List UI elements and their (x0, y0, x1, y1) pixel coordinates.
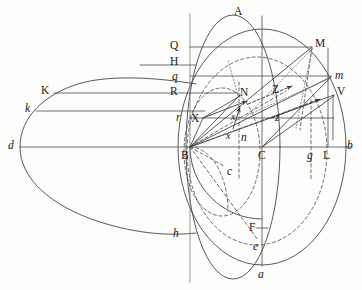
point-label-m: m (335, 70, 343, 82)
point-label-e: e (253, 241, 258, 253)
point-label-h: h (173, 228, 179, 240)
dotted-m-n (246, 78, 330, 116)
point-label-c: c (227, 166, 232, 178)
point-label-r: r (176, 112, 180, 124)
dashed-B-upper-right (190, 91, 286, 147)
ray-B-M (190, 47, 312, 147)
point-label-X: X (191, 113, 199, 125)
inner-dashed-ellipse (187, 57, 327, 245)
point-label-b: b (347, 140, 353, 152)
point-label-n: n (241, 132, 247, 144)
dashed-B-c (190, 147, 224, 166)
point-label-x-lower: x (226, 131, 230, 141)
point-label-g: g (307, 150, 313, 162)
point-label-K: K (41, 85, 49, 97)
dashed-B-e (190, 147, 258, 240)
point-label-q: q (172, 71, 178, 83)
point-label-R: R (170, 86, 178, 98)
point-label-M: M (315, 38, 325, 50)
left-flat-ellipse (20, 78, 196, 234)
point-label-x-upper: x (231, 112, 235, 122)
point-label-V: V (337, 86, 345, 98)
geometry-diagram (0, 0, 362, 290)
point-label-A: A (234, 6, 242, 18)
vector-arrow-Z-upper (248, 86, 292, 104)
point-label-L: L (323, 150, 330, 162)
point-label-N: N (240, 87, 248, 99)
dotted-M-down (296, 49, 312, 128)
point-label-a: a (258, 269, 264, 281)
point-label-Q: Q (170, 40, 178, 52)
point-label-F: F (249, 222, 255, 234)
point-label-H: H (170, 56, 178, 68)
point-label-Z: Z (272, 84, 279, 96)
figure-root: A Q M H q m K R N Z V k r X x z d x n b … (0, 0, 362, 290)
lower-solid-arc-Bca (190, 147, 262, 219)
point-label-B: B (181, 150, 189, 162)
point-label-k: k (25, 103, 30, 115)
vector-arrow-X-upper (203, 101, 247, 118)
point-label-z: z (275, 112, 279, 124)
small-dashed-arc-Bc (190, 147, 228, 211)
point-label-C: C (258, 150, 266, 162)
point-label-d: d (8, 140, 14, 152)
